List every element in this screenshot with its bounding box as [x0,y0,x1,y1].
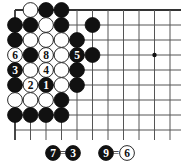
black-stone-icon [8,78,23,93]
go-board: 6853421 [0,0,182,145]
white-stone-icon [54,48,69,63]
stones-layer: 6853421 [8,3,100,123]
black-stone-icon [85,18,100,33]
white-stone [23,93,38,108]
black-stone [70,63,85,78]
move-number: 3 [70,147,76,159]
move-number: 2 [28,79,34,91]
black-stone [8,78,23,93]
black-stone-icon [70,33,85,48]
move-3-stone: 3 [8,63,23,78]
white-stone-icon [23,3,38,18]
black-stone-icon [70,63,85,78]
white-stone-icon [8,93,23,108]
black-stone [54,108,69,123]
white-stone-icon [54,63,69,78]
move-8-stone: 8 [39,48,54,63]
move-number: 3 [12,64,18,76]
star-points [152,53,156,57]
black-stone [54,93,69,108]
move-6-stone: 6 [8,48,23,63]
black-stone-icon [39,108,54,123]
black-stone [70,78,85,93]
caption-move-7: 7 [46,146,61,161]
white-stone [23,3,38,18]
move-number: 4 [43,64,49,76]
move-number: 5 [74,49,80,61]
white-stone [23,33,38,48]
white-stone-icon [39,33,54,48]
black-stone-icon [54,93,69,108]
white-stone [54,78,69,93]
move-number: 6 [12,49,18,61]
white-stone [54,48,69,63]
black-stone-icon [70,78,85,93]
white-stone [39,33,54,48]
black-stone-icon [8,33,23,48]
white-stone-icon [54,78,69,93]
move-number: 8 [43,49,49,61]
white-stone [39,18,54,33]
black-stone [85,18,100,33]
white-stone [54,33,69,48]
black-stone-icon [23,48,38,63]
white-stone-icon [23,63,38,78]
move-number: 6 [124,147,130,159]
move-5-stone: 5 [70,48,85,63]
black-stone [54,3,69,18]
black-stone-icon [54,108,69,123]
black-stone [8,18,23,33]
move-number: 1 [43,79,49,91]
black-stone-icon [54,18,69,33]
equals-sign: = [113,146,120,160]
black-stone [39,3,54,18]
star-point [152,53,156,57]
caption-move-3: 3 [66,146,81,161]
black-stone [23,48,38,63]
move-number: 9 [103,147,109,159]
white-stone-icon [23,33,38,48]
black-stone-icon [85,48,100,63]
black-stone [70,33,85,48]
white-stone-icon [39,18,54,33]
white-stone-icon [23,93,38,108]
black-stone [23,108,38,123]
move-4-stone: 4 [39,63,54,78]
black-stone-icon [23,108,38,123]
move-equivalence-caption: 7=39=6 [0,143,182,163]
move-1-stone: 1 [39,78,54,93]
black-stone-icon [54,3,69,18]
move-2-stone: 2 [23,78,38,93]
black-stone-icon [39,3,54,18]
white-stone [39,93,54,108]
white-stone-icon [54,33,69,48]
black-stone-icon [23,18,38,33]
caption-move-9: 9 [99,146,114,161]
white-stone [8,93,23,108]
black-stone [8,33,23,48]
white-stone [54,63,69,78]
black-stone [23,18,38,33]
black-stone-icon [8,18,23,33]
black-stone-icon [8,108,23,123]
black-stone [54,18,69,33]
caption-move-6: 6 [120,146,135,161]
white-stone-icon [39,93,54,108]
black-stone [8,108,23,123]
move-number: 7 [50,147,56,159]
black-stone [39,108,54,123]
black-stone [85,48,100,63]
white-stone [23,63,38,78]
